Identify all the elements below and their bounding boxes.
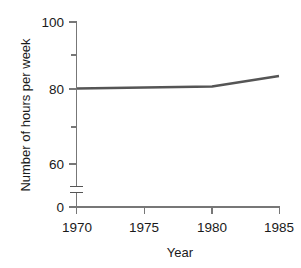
x-axis-title: Year — [167, 245, 194, 260]
x-tick-label-1985: 1985 — [264, 220, 294, 235]
y-tick-label-80: 80 — [49, 82, 64, 97]
y-tick-label-0: 0 — [56, 200, 64, 215]
y-tick-label-100: 100 — [41, 15, 64, 30]
y-axis-title: Number of hours per week — [18, 38, 33, 192]
line-chart: 100 80 60 0 1970 1975 1980 1985 Year Num… — [0, 0, 301, 268]
x-tick-label-1980: 1980 — [197, 220, 227, 235]
data-series-line — [77, 76, 279, 89]
chart-canvas: 100 80 60 0 1970 1975 1980 1985 Year Num… — [0, 0, 301, 268]
y-tick-label-60: 60 — [49, 157, 64, 172]
x-tick-label-1970: 1970 — [62, 220, 92, 235]
x-tick-label-1975: 1975 — [129, 220, 159, 235]
